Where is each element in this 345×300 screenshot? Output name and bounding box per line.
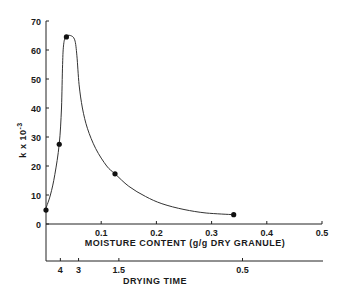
- drying-time-tick-label: 1.5: [113, 265, 126, 275]
- y-axis-label-group: k x 10-3: [16, 122, 28, 157]
- y-axis-label-base: k x 10: [18, 130, 28, 158]
- data-point: [64, 34, 69, 39]
- x-tick-label: 0.2: [150, 228, 163, 238]
- drying-time-tick-label: 3: [76, 265, 81, 275]
- y-tick-label: 70: [31, 17, 41, 27]
- x-tick-label: 0.3: [205, 228, 218, 238]
- axes: [46, 21, 323, 261]
- data-point: [43, 207, 48, 212]
- y-tick-label: 40: [31, 104, 41, 114]
- y-tick-label: 0: [36, 220, 41, 230]
- data-point: [57, 142, 62, 147]
- x-tick-label: 0.1: [95, 228, 108, 238]
- y-tick-label: 30: [31, 133, 41, 143]
- data-points: [43, 34, 236, 217]
- chart: 010203040506070 0.10.20.30.40.5 431.50.5…: [0, 0, 345, 300]
- x-axis-label: MOISTURE CONTENT (g/g DRY GRANULE): [85, 238, 286, 248]
- x-tick-label: 0.4: [261, 228, 274, 238]
- x-tick-label: 0.5: [316, 228, 329, 238]
- y-tick-label: 10: [31, 191, 41, 201]
- data-point: [231, 212, 236, 217]
- y-tick-label: 20: [31, 162, 41, 172]
- y-axis-label: k x 10-3: [16, 122, 28, 157]
- y-axis-label-exponent: -3: [16, 122, 23, 129]
- drying-time-label: DRYING TIME: [123, 276, 187, 286]
- y-tick-label: 50: [31, 75, 41, 85]
- data-point: [112, 171, 117, 176]
- y-tick-label: 60: [31, 46, 41, 56]
- drying-time-tick-label: 4: [58, 265, 63, 275]
- drying-time-tick-label: 0.5: [236, 265, 249, 275]
- fitted-curve: [46, 35, 234, 214]
